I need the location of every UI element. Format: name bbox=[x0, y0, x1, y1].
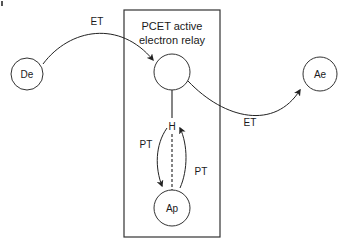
box-title-line1: PCET active bbox=[142, 20, 203, 32]
box-title-line2: electron relay bbox=[139, 34, 206, 46]
acceptor-label: Ae bbox=[314, 69, 327, 80]
relay-node bbox=[154, 54, 190, 90]
pt-down-arrow bbox=[157, 128, 167, 186]
proton-acceptor-label: Ap bbox=[166, 203, 179, 214]
pt-up-arrow bbox=[180, 128, 186, 188]
et-out-label: ET bbox=[244, 117, 257, 128]
pcet-diagram: PCET active electron relay De Ae Ap ET E… bbox=[0, 0, 350, 245]
pt-right-label: PT bbox=[195, 166, 208, 177]
hydrogen-label: H bbox=[168, 121, 175, 132]
donor-label: De bbox=[21, 69, 34, 80]
et-in-arrow bbox=[43, 33, 153, 64]
pt-left-label: PT bbox=[140, 139, 153, 150]
et-out-arrow bbox=[188, 81, 300, 116]
et-in-label: ET bbox=[91, 16, 104, 27]
corner-mark bbox=[1, 1, 3, 6]
